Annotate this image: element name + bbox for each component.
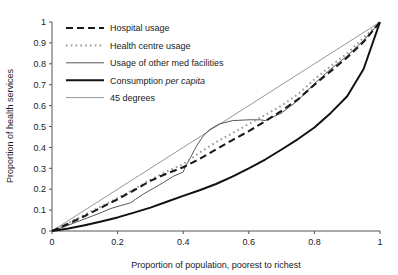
data-series [52,22,380,231]
x-tick-label: 0.6 [243,237,256,247]
x-axis-title: Proportion of population, poorest to ric… [131,260,301,270]
lorenz-curve-chart: 00.10.20.30.40.50.60.70.80.91 00.20.40.6… [0,0,398,275]
y-tick-label: 0.5 [33,122,46,132]
chart-canvas: 00.10.20.30.40.50.60.70.80.91 00.20.40.6… [0,0,398,275]
x-tick-label: 0 [49,237,54,247]
legend-item[interactable]: Consumption per capita [66,76,205,86]
y-tick-labels: 00.10.20.30.40.50.60.70.80.91 [33,17,52,236]
y-tick-label: 0.6 [33,101,46,111]
y-tick-label: 0 [41,226,46,236]
x-tick-label: 0.4 [177,237,190,247]
series-line [52,22,380,231]
y-tick-label: 1 [41,17,46,27]
chart-legend: Hospital usageHealth centre usageUsage o… [66,23,224,103]
y-tick-label: 0.8 [33,59,46,69]
legend-item[interactable]: Health centre usage [66,41,191,51]
y-axis-title: Proportion of health services [5,68,15,183]
legend-item[interactable]: Usage of other med facilities [66,58,224,68]
x-tick-label: 1 [377,237,382,247]
legend-label: 45 degrees [110,93,156,103]
legend-item[interactable]: 45 degrees [66,93,156,103]
y-tick-label: 0.3 [33,164,46,174]
x-tick-labels: 00.20.40.60.81 [49,231,382,247]
legend-label: Usage of other med facilities [110,58,224,68]
y-tick-label: 0.2 [33,184,46,194]
y-tick-label: 0.4 [33,143,46,153]
y-tick-label: 0.9 [33,38,46,48]
y-tick-label: 0.7 [33,80,46,90]
y-tick-label: 0.1 [33,205,46,215]
legend-label: Consumption per capita [110,76,205,86]
legend-label: Hospital usage [110,23,170,33]
x-tick-label: 0.2 [111,237,124,247]
legend-label: Health centre usage [110,41,191,51]
x-tick-label: 0.8 [308,237,321,247]
legend-item[interactable]: Hospital usage [66,23,170,33]
